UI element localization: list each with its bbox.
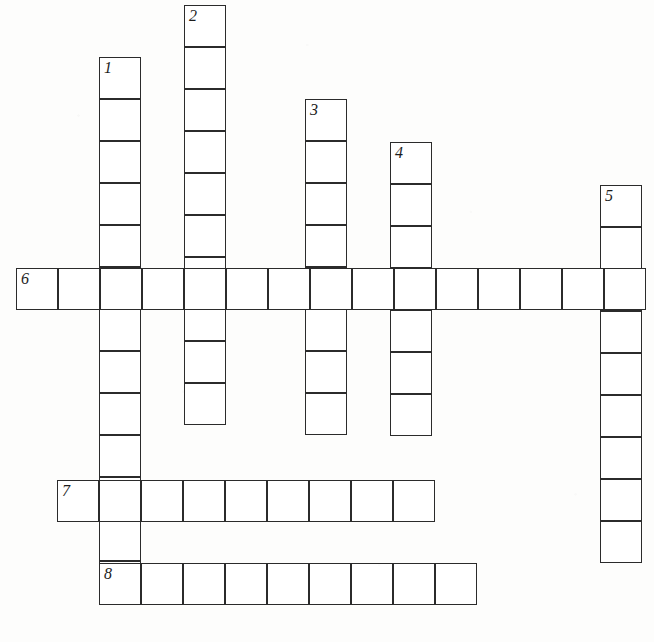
crossword-cell[interactable] [184, 383, 226, 425]
crossword-cell[interactable] [267, 563, 309, 605]
clue-number-2: 2 [189, 8, 197, 24]
crossword-cell[interactable] [184, 47, 226, 89]
crossword-cell[interactable] [99, 225, 141, 267]
crossword-cell[interactable] [435, 563, 477, 605]
crossword-cell[interactable] [600, 521, 642, 563]
crossword-cell[interactable] [600, 395, 642, 437]
crossword-cell[interactable] [394, 268, 436, 310]
crossword-cell[interactable] [305, 309, 347, 351]
crossword-cell[interactable] [352, 268, 394, 310]
crossword-cell[interactable] [305, 225, 347, 267]
crossword-cell[interactable] [305, 183, 347, 225]
crossword-cell[interactable] [393, 563, 435, 605]
crossword-cell[interactable] [600, 437, 642, 479]
crossword-cell[interactable] [390, 184, 432, 226]
clue-number-4: 4 [395, 145, 403, 161]
crossword-cell[interactable] [600, 311, 642, 353]
crossword-puzzle: 12345678 [0, 0, 654, 642]
crossword-cell[interactable] [390, 226, 432, 268]
crossword-cell[interactable] [99, 480, 141, 522]
crossword-cell[interactable] [390, 310, 432, 352]
crossword-cell[interactable] [309, 480, 351, 522]
crossword-cell[interactable] [99, 519, 141, 561]
crossword-cell[interactable] [600, 353, 642, 395]
crossword-cell[interactable] [100, 268, 142, 310]
crossword-cell[interactable] [141, 563, 183, 605]
crossword-cell[interactable] [310, 268, 352, 310]
crossword-grid[interactable]: 12345678 [0, 0, 654, 642]
crossword-cell[interactable] [225, 480, 267, 522]
crossword-cell[interactable] [141, 480, 183, 522]
crossword-cell[interactable] [268, 268, 310, 310]
crossword-cell[interactable] [99, 351, 141, 393]
crossword-cell[interactable] [99, 141, 141, 183]
clue-number-1: 1 [104, 60, 112, 76]
crossword-cell[interactable] [99, 309, 141, 351]
crossword-cell[interactable] [351, 480, 393, 522]
crossword-cell[interactable] [99, 183, 141, 225]
crossword-cell[interactable] [436, 268, 478, 310]
crossword-cell[interactable] [58, 268, 100, 310]
crossword-cell[interactable] [309, 563, 351, 605]
crossword-cell[interactable] [305, 351, 347, 393]
crossword-cell[interactable] [99, 393, 141, 435]
clue-number-5: 5 [605, 188, 613, 204]
crossword-cell[interactable] [267, 480, 309, 522]
crossword-cell[interactable] [562, 268, 604, 310]
crossword-cell[interactable] [393, 480, 435, 522]
clue-number-7: 7 [62, 483, 70, 499]
crossword-cell[interactable] [183, 563, 225, 605]
crossword-cell[interactable] [520, 268, 562, 310]
crossword-cell[interactable] [99, 99, 141, 141]
crossword-cell[interactable] [183, 480, 225, 522]
crossword-cell[interactable] [184, 173, 226, 215]
crossword-cell[interactable] [478, 268, 520, 310]
crossword-cell[interactable] [351, 563, 393, 605]
crossword-cell[interactable] [600, 227, 642, 269]
crossword-cell[interactable] [305, 393, 347, 435]
crossword-cell[interactable] [390, 352, 432, 394]
crossword-cell[interactable] [604, 268, 646, 310]
crossword-cell[interactable] [142, 268, 184, 310]
crossword-cell[interactable] [184, 89, 226, 131]
clue-number-6: 6 [21, 271, 29, 287]
crossword-cell[interactable] [184, 131, 226, 173]
crossword-cell[interactable] [600, 479, 642, 521]
crossword-cell[interactable] [305, 141, 347, 183]
clue-number-8: 8 [104, 566, 112, 582]
clue-number-3: 3 [310, 102, 318, 118]
crossword-cell[interactable] [226, 268, 268, 310]
crossword-cell[interactable] [99, 435, 141, 477]
crossword-cell[interactable] [184, 215, 226, 257]
crossword-cell[interactable] [184, 341, 226, 383]
crossword-cell[interactable] [390, 394, 432, 436]
crossword-cell[interactable] [184, 268, 226, 310]
crossword-cell[interactable] [225, 563, 267, 605]
